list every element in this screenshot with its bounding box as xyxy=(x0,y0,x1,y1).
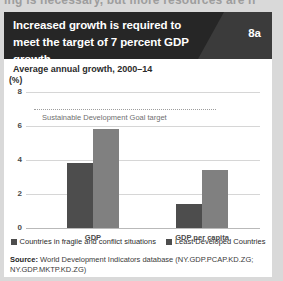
legend-item-fragile: Countries in fragile and conflict situat… xyxy=(11,237,156,246)
figure-source: Source: World Development Indicators dat… xyxy=(10,255,266,275)
page-strip-below-figure xyxy=(0,277,283,281)
source-text: World Development Indicators database (N… xyxy=(10,255,253,274)
sdg-target-label: Sustainable Development Goal target xyxy=(42,113,167,122)
figure-panel: Increased growth is required to meet the… xyxy=(4,12,272,277)
y-axis-tick-label-6: 6 xyxy=(8,121,22,130)
gridline-8 xyxy=(26,92,260,93)
y-axis-tick-label-0: 0 xyxy=(8,223,22,232)
legend-swatch-icon-ldc xyxy=(166,239,172,245)
y-axis-tick-label-2: 2 xyxy=(8,189,22,198)
gridline-6 xyxy=(26,126,260,127)
bar-fragile-0 xyxy=(67,163,93,228)
bar-fragile-1 xyxy=(176,204,202,228)
legend-label-ldc: Least Developed Countries xyxy=(175,237,265,246)
gridline-4 xyxy=(26,160,260,161)
page-text-above-figure: ing is necessary, but more resources are… xyxy=(0,0,283,11)
gridline-0 xyxy=(26,228,260,229)
legend-label-fragile: Countries in fragile and conflict situat… xyxy=(20,237,156,246)
bar-ldc-1 xyxy=(202,170,228,228)
bar-ldc-0 xyxy=(93,129,119,228)
y-axis-tick-label-8: 8 xyxy=(8,87,22,96)
page-ghost-text: ing is necessary, but more resources are… xyxy=(4,0,256,7)
legend-item-ldc: Least Developed Countries xyxy=(166,237,265,246)
sdg-target-line xyxy=(34,109,216,110)
legend-swatch-icon-fragile xyxy=(11,239,17,245)
source-label: Source: xyxy=(10,255,38,264)
y-axis-tick-label-4: 4 xyxy=(8,155,22,164)
chart-legend: Countries in fragile and conflict situat… xyxy=(4,237,272,246)
